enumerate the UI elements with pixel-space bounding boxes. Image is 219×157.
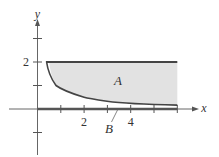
x-tick-label-4: 4 [128,116,134,128]
region-b-label: B [105,122,113,135]
y-axis-label: y [35,8,40,20]
diagram-figure: y x 2 2 4 A B [0,0,219,157]
x-axis-label: x [201,102,206,114]
x-axis-arrow-icon [192,107,199,112]
y-tick-label-2: 2 [23,56,29,68]
x-tick-label-2: 2 [81,116,87,128]
region-a-label: A [114,74,122,87]
